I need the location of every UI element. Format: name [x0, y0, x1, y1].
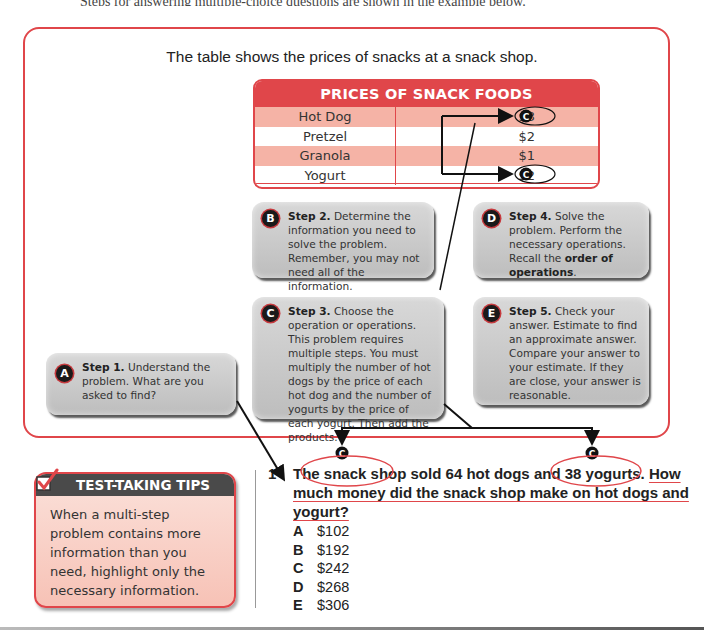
- svg-text:C: C: [523, 112, 530, 122]
- step-a-arrow: [237, 401, 283, 478]
- fact-circle-yogurts: [551, 456, 641, 486]
- step-c-connector: [440, 123, 475, 290]
- fact-circle-hot-dogs: [301, 456, 393, 486]
- svg-text:C: C: [589, 449, 596, 459]
- svg-text:C: C: [523, 170, 530, 180]
- svg-text:C: C: [339, 449, 346, 459]
- annotation-arrows: C C C C: [0, 0, 704, 635]
